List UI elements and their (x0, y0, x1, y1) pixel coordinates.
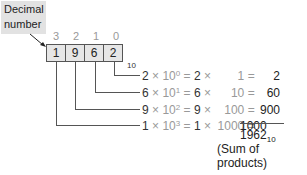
digit-cell-hundreds: 9 (65, 44, 85, 62)
position-2: 2 (66, 30, 86, 42)
connector-hundreds-horizontal (75, 109, 140, 110)
equation-row-tens: 6 × 101 = 6 × 10 = (142, 86, 255, 100)
product-tens: 60 (240, 86, 280, 100)
base-subscript: 10 (127, 61, 136, 70)
equation-row-hundreds: 9 × 102 = 9 × 100 = (142, 103, 255, 117)
connector-ones-horizontal (114, 75, 140, 76)
product-hundreds: 900 (240, 103, 280, 117)
digit-cell-tens: 6 (84, 44, 104, 62)
equation-row-thousands: 1 × 103 = 1 × 1000 = (142, 119, 255, 133)
connector-ones-vertical (114, 62, 115, 76)
connector-hundreds-vertical (75, 62, 76, 110)
position-0: 0 (106, 30, 126, 42)
digit-cell-thousands: 1 (46, 44, 66, 62)
connector-thousands-vertical (56, 62, 57, 126)
sum-rule (240, 123, 284, 124)
connector-tens-horizontal (95, 92, 140, 93)
position-3: 3 (46, 30, 66, 42)
product-ones: 2 (240, 69, 280, 83)
digit-cell-ones: 2 (103, 44, 123, 62)
equation-row-ones: 2 × 100 = 2 × 1 = (142, 69, 255, 83)
position-1: 1 (86, 30, 106, 42)
connector-tens-vertical (95, 62, 96, 93)
connector-thousands-horizontal (56, 125, 140, 126)
sum-caption: (Sum of products) (217, 142, 307, 170)
